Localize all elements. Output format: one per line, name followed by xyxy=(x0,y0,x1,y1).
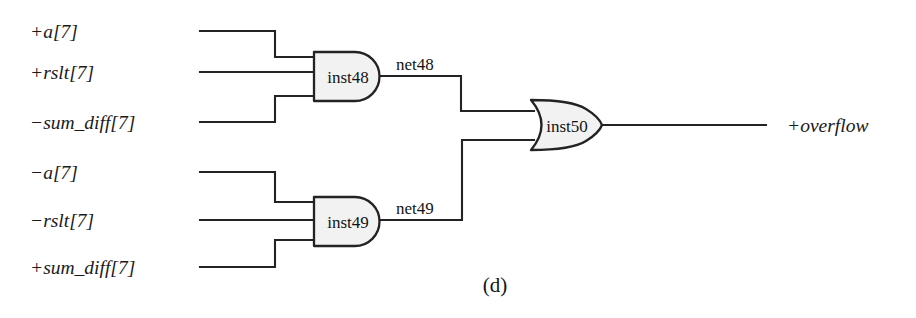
input-label-a7-plus: +a[7] xyxy=(30,21,78,42)
circuit-schematic-canvas: inst48 inst49 inst50 +a[7] +rslt[7] −sum… xyxy=(0,0,916,318)
input-wire-sum-diff7-minus xyxy=(200,96,314,122)
gate-inst48[interactable]: inst48 xyxy=(314,52,380,101)
schematic-figure: inst48 inst49 inst50 +a[7] +rslt[7] −sum… xyxy=(0,0,916,318)
net-label-group: net48 net49 xyxy=(396,55,434,218)
net-wire-net48 xyxy=(380,76,534,111)
gate-label-inst50: inst50 xyxy=(546,117,588,136)
input-label-rslt7-plus: +rslt[7] xyxy=(30,62,94,83)
figure-caption: (d) xyxy=(483,273,508,297)
gate-label-inst48: inst48 xyxy=(327,68,369,87)
input-wire-group-inst48 xyxy=(200,31,314,122)
net-label-net48: net48 xyxy=(396,55,434,74)
gate-inst49[interactable]: inst49 xyxy=(314,197,380,246)
input-label-sum-diff7-plus: +sum_diff[7] xyxy=(30,257,135,278)
input-wire-sum-diff7-plus xyxy=(200,240,314,267)
gate-label-inst49: inst49 xyxy=(327,213,369,232)
input-label-a7-minus: −a[7] xyxy=(30,162,78,183)
net-label-net49: net49 xyxy=(396,199,434,218)
input-label-rslt7-minus: −rslt[7] xyxy=(30,210,94,231)
input-wire-a7-minus xyxy=(200,172,314,202)
gate-inst50[interactable]: inst50 xyxy=(531,100,602,150)
output-label-overflow: +overflow xyxy=(787,115,868,136)
net-wire-group xyxy=(380,76,766,220)
input-label-sum-diff7-minus: −sum_diff[7] xyxy=(30,112,135,133)
input-wire-group-inst49 xyxy=(200,172,314,267)
input-label-group: +a[7] +rslt[7] −sum_diff[7] −a[7] −rslt[… xyxy=(30,21,135,278)
input-wire-a7-plus xyxy=(200,31,314,57)
